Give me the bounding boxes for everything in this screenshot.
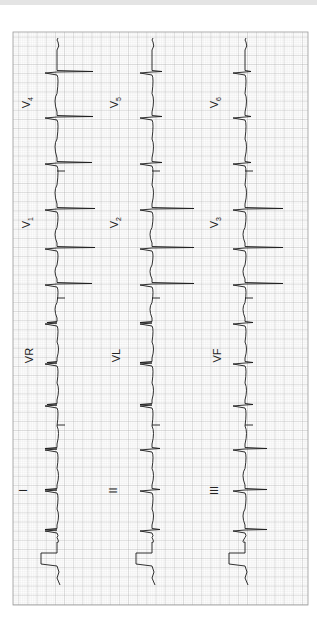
lead-label-v4: V4 bbox=[21, 97, 34, 108]
lead-label-iii: III bbox=[209, 486, 220, 495]
lead-label-v6: V6 bbox=[209, 97, 222, 108]
lead-label-v5: V5 bbox=[109, 97, 122, 108]
lead-label-avr: VR bbox=[24, 348, 35, 363]
lead-label-v3: V3 bbox=[209, 217, 222, 228]
lead-label-avf: VF bbox=[212, 348, 223, 362]
ecg-chart bbox=[0, 0, 317, 625]
lead-label-avl: VL bbox=[111, 349, 122, 362]
lead-label-v1: V1 bbox=[21, 217, 34, 228]
lead-label-ii: II bbox=[108, 487, 119, 493]
lead-label-i: I bbox=[18, 489, 29, 492]
lead-label-v2: V2 bbox=[109, 217, 122, 228]
